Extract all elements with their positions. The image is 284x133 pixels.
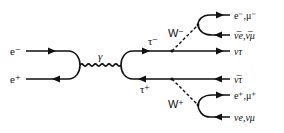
tau-minus-arrow xyxy=(142,48,150,55)
label-tau-minus: τ⁻ xyxy=(148,35,158,47)
label-tau-plus: τ⁺ xyxy=(140,83,150,95)
top-antineutrino-arrow xyxy=(214,32,222,39)
label-nu-tau: ντ xyxy=(234,46,242,57)
tau-plus-arrow xyxy=(138,76,146,83)
diagram-svg: e⁻ e⁺ γ τ⁻ τ⁺ W⁻ W⁺ e⁻,μ⁻ ν̅e,ν̅μ ντ ν̅τ… xyxy=(0,0,284,133)
antinu-tau-arrow xyxy=(214,76,222,83)
bottom-neutrino-line xyxy=(198,105,230,117)
top-lepton-line xyxy=(198,15,230,25)
label-w-minus: W⁻ xyxy=(168,27,184,39)
label-top-antineutrino: ν̅e,ν̅μ xyxy=(234,30,255,41)
top-lepton-arrow xyxy=(216,12,224,19)
bottom-lepton-arrow xyxy=(216,92,224,99)
tau-minus-line xyxy=(121,51,172,65)
feynman-diagram: e⁻ e⁺ γ τ⁻ τ⁺ W⁻ W⁺ e⁻,μ⁻ ν̅e,ν̅μ ντ ν̅τ… xyxy=(0,0,284,133)
electron-arrow xyxy=(48,48,56,55)
positron-arrow xyxy=(52,76,60,83)
label-bottom-lepton: e⁺,μ⁺ xyxy=(234,90,256,101)
label-e-plus: e⁺ xyxy=(10,73,21,85)
bottom-lepton-line xyxy=(198,95,230,105)
label-top-lepton: e⁻,μ⁻ xyxy=(234,10,256,21)
label-antinu-tau: ν̅τ xyxy=(234,74,242,85)
top-antineutrino-line xyxy=(198,25,230,35)
label-e-minus: e⁻ xyxy=(10,45,21,57)
electron-line xyxy=(26,51,80,65)
label-bottom-neutrino: νe,νμ xyxy=(234,112,255,123)
bottom-neutrino-arrow xyxy=(214,114,222,121)
nu-tau-arrow xyxy=(216,48,224,55)
tau-plus-line xyxy=(121,65,172,79)
label-w-plus: W⁺ xyxy=(168,98,184,110)
label-photon: γ xyxy=(98,50,103,62)
photon-line xyxy=(80,64,121,66)
positron-line xyxy=(26,65,80,79)
